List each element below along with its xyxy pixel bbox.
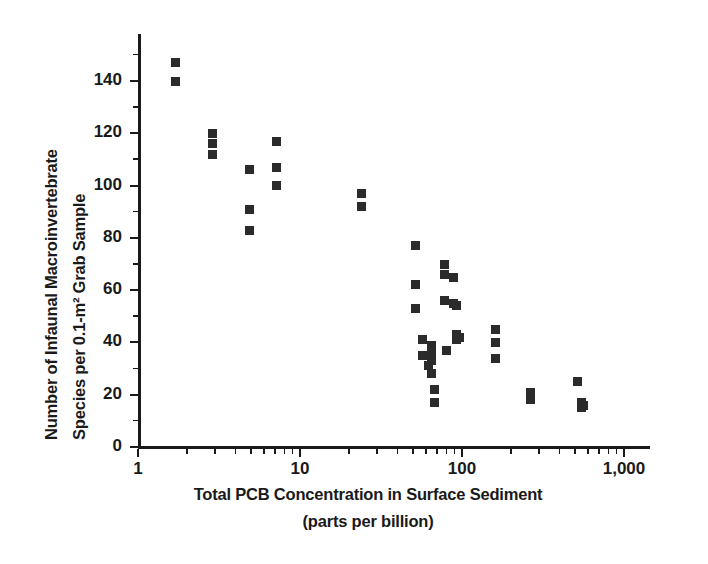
data-point	[272, 163, 281, 172]
data-point	[418, 351, 427, 360]
x-tick-minor	[510, 449, 512, 454]
x-tick-major	[137, 449, 139, 457]
y-tick-label: 0	[62, 436, 122, 456]
y-tick-label: 20	[62, 384, 122, 404]
y-tick-minor	[133, 315, 139, 317]
data-point	[427, 369, 436, 378]
x-tick-minor	[348, 449, 350, 454]
x-tick-minor	[598, 449, 600, 454]
y-tick-major	[130, 341, 139, 343]
data-point	[452, 301, 461, 310]
data-point	[208, 129, 217, 138]
x-tick-minor	[454, 449, 456, 454]
data-point	[491, 354, 500, 363]
x-tick-minor	[186, 449, 188, 454]
x-axis-caption-line-2: (parts per billion)	[14, 512, 708, 531]
y-tick-label: 40	[62, 331, 122, 351]
data-point	[245, 165, 254, 174]
x-tick-minor	[574, 449, 576, 454]
data-point	[208, 150, 217, 159]
x-tick-minor	[616, 449, 618, 454]
y-tick-major	[130, 289, 139, 291]
y-tick-minor	[133, 158, 139, 160]
y-tick-label: 120	[62, 122, 122, 142]
x-tick-minor	[235, 449, 237, 454]
data-point	[272, 181, 281, 190]
x-axis-caption-line-1: Total PCB Concentration in Surface Sedim…	[14, 485, 708, 504]
data-point	[440, 260, 449, 269]
y-tick-minor	[133, 368, 139, 370]
x-tick-minor	[412, 449, 414, 454]
y-tick-minor	[133, 420, 139, 422]
data-point	[418, 335, 427, 344]
x-tick-minor	[559, 449, 561, 454]
data-point	[579, 401, 588, 410]
x-tick-minor	[263, 449, 265, 454]
data-point	[171, 77, 180, 86]
x-tick-minor	[214, 449, 216, 454]
y-tick-label: 80	[62, 227, 122, 247]
data-point	[171, 58, 180, 67]
x-tick-minor	[446, 449, 448, 454]
y-tick-label: 60	[62, 279, 122, 299]
data-point	[357, 189, 366, 198]
y-tick-minor	[133, 263, 139, 265]
x-tick-minor	[538, 449, 540, 454]
data-point	[427, 356, 436, 365]
y-tick-label: 140	[62, 70, 122, 90]
data-point	[491, 325, 500, 334]
x-tick-major	[461, 449, 463, 457]
x-tick-major	[299, 449, 301, 457]
x-tick-minor	[274, 449, 276, 454]
data-point	[272, 137, 281, 146]
y-tick-major	[130, 185, 139, 187]
y-axis-title-line-1: Number of Infaunal Macroinvertebrate	[42, 149, 61, 440]
y-tick-minor	[133, 106, 139, 108]
x-tick-label: 1,000	[584, 459, 664, 479]
data-point	[411, 304, 420, 313]
data-point	[573, 377, 582, 386]
x-tick-label: 10	[260, 459, 340, 479]
data-point	[449, 273, 458, 282]
x-tick-minor	[397, 449, 399, 454]
y-tick-major	[130, 446, 139, 448]
y-tick-minor	[133, 211, 139, 213]
x-tick-minor	[425, 449, 427, 454]
x-tick-minor	[376, 449, 378, 454]
data-point	[411, 241, 420, 250]
data-point	[208, 139, 217, 148]
data-point	[430, 398, 439, 407]
x-tick-label: 100	[422, 459, 502, 479]
data-point	[491, 338, 500, 347]
data-point	[245, 226, 254, 235]
y-axis-line	[138, 34, 141, 449]
y-tick-label: 100	[62, 175, 122, 195]
x-tick-minor	[608, 449, 610, 454]
x-tick-minor	[436, 449, 438, 454]
x-tick-minor	[587, 449, 589, 454]
y-tick-major	[130, 237, 139, 239]
data-point	[411, 280, 420, 289]
data-point	[442, 346, 451, 355]
data-point	[455, 333, 464, 342]
x-tick-major	[623, 449, 625, 457]
x-tick-minor	[250, 449, 252, 454]
data-point	[430, 385, 439, 394]
y-tick-major	[130, 80, 139, 82]
x-tick-label: 1	[98, 459, 178, 479]
y-tick-major	[130, 394, 139, 396]
data-point	[526, 395, 535, 404]
scatter-plot-figure: Number of Infaunal Macroinvertebrate Spe…	[0, 0, 708, 564]
x-tick-minor	[284, 449, 286, 454]
data-point	[357, 202, 366, 211]
y-tick-minor	[133, 54, 139, 56]
data-point	[245, 205, 254, 214]
x-tick-minor	[292, 449, 294, 454]
y-tick-major	[130, 132, 139, 134]
